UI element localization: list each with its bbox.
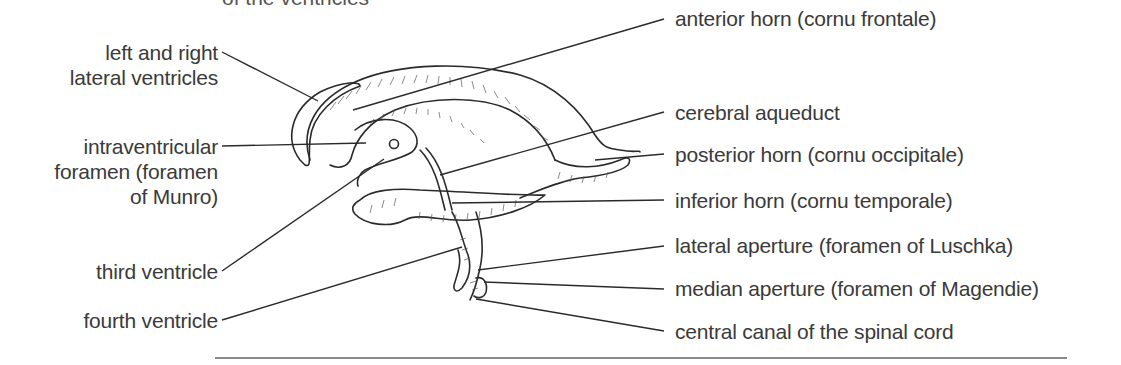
label-cerebral-aqueduct: cerebral aqueduct bbox=[675, 100, 840, 125]
label-third-ventricle: third ventricle bbox=[96, 259, 218, 284]
leader-inferior-horn bbox=[452, 200, 664, 203]
label-central-canal: central canal of the spinal cord bbox=[675, 319, 953, 344]
label-line: third ventricle bbox=[96, 259, 218, 284]
fourth-ventricle-shape bbox=[452, 212, 470, 291]
label-line: left and right bbox=[70, 40, 218, 65]
leader-lateral-ventricles bbox=[222, 52, 318, 101]
label-line: intraventricular bbox=[54, 134, 218, 159]
leader-anterior-horn bbox=[353, 19, 664, 110]
label-intraventricular-foramen: intraventricular foramen (foramen of Mun… bbox=[54, 134, 218, 209]
label-lateral-aperture: lateral aperture (foramen of Luschka) bbox=[675, 233, 1013, 258]
label-fourth-ventricle: fourth ventricle bbox=[83, 308, 218, 333]
leader-fourth-ventricle bbox=[222, 247, 462, 320]
leader-cerebral-aqueduct bbox=[440, 112, 664, 175]
label-posterior-horn: posterior horn (cornu occipitale) bbox=[675, 142, 964, 167]
label-median-aperture: median aperture (foramen of Magendie) bbox=[675, 276, 1039, 301]
label-line: fourth ventricle bbox=[83, 308, 218, 333]
label-line: of Munro) bbox=[54, 184, 218, 209]
label-line: foramen (foramen bbox=[54, 159, 218, 184]
leader-lateral-aperture bbox=[478, 246, 664, 270]
far-lateral-ventricle-shape bbox=[292, 83, 360, 166]
third-ventricle-shape bbox=[355, 120, 417, 186]
label-lateral-ventricles: left and right lateral ventricles bbox=[70, 40, 218, 90]
label-inferior-horn: inferior horn (cornu temporale) bbox=[675, 188, 952, 213]
label-anterior-horn: anterior horn (cornu frontale) bbox=[675, 6, 936, 31]
leader-central-canal bbox=[476, 299, 664, 331]
cerebral-aqueduct-shape bbox=[420, 150, 445, 210]
posterior-horn-shape bbox=[520, 158, 630, 198]
bottom-divider bbox=[215, 357, 1067, 359]
leader-third-ventricle bbox=[222, 159, 384, 271]
ventricles-diagram: of the ventricles bbox=[0, 0, 1121, 365]
label-line: lateral ventricles bbox=[70, 65, 218, 90]
interthalamic-adhesion bbox=[390, 140, 399, 149]
leader-median-aperture bbox=[484, 282, 664, 289]
leader-intraventricular-foramen bbox=[222, 143, 366, 146]
lateral-ventricle-body bbox=[307, 66, 640, 160]
